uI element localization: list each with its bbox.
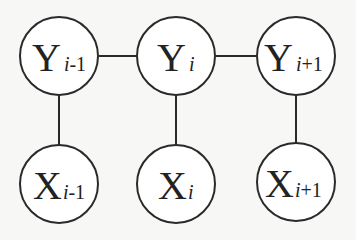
- node-x-cur: Xi: [137, 145, 215, 223]
- node-symbol: Y: [264, 35, 293, 80]
- node-symbol: Y: [157, 35, 186, 80]
- node-y-prev: Yi-1: [20, 17, 98, 95]
- crf-diagram: Yi-1 Yi Yi+1 Xi-1 Xi Xi+1: [0, 0, 356, 240]
- node-symbol: Y: [32, 35, 61, 80]
- node-symbol: X: [158, 163, 187, 208]
- node-symbol: X: [33, 163, 62, 208]
- node-x-prev: Xi-1: [20, 145, 98, 223]
- node-symbol: X: [265, 161, 294, 206]
- node-y-cur: Yi: [137, 17, 215, 95]
- node-y-next: Yi+1: [257, 17, 335, 95]
- node-x-next: Xi+1: [257, 143, 335, 221]
